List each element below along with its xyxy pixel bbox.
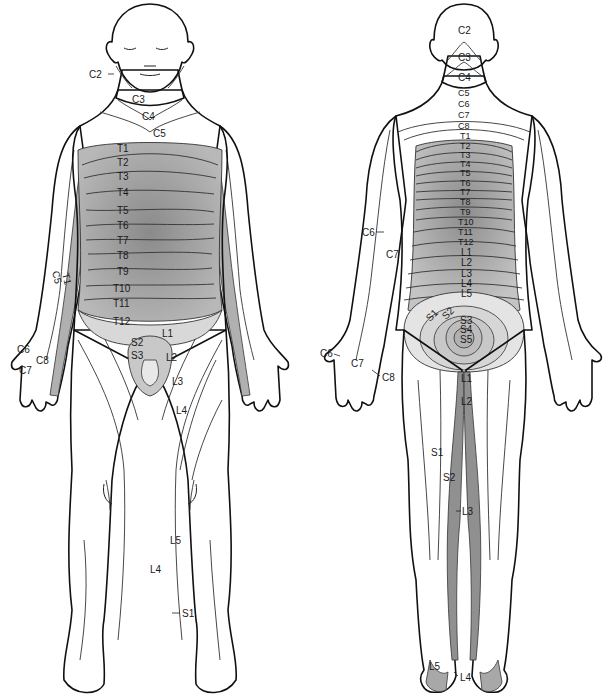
label-c4: C4 (142, 111, 155, 122)
label-leg-l3: L3 (462, 506, 474, 517)
label-t4: T4 (117, 187, 129, 198)
label-c3: C3 (132, 94, 145, 105)
label-t5: T5 (117, 205, 129, 216)
label-post-c8: C8 (458, 121, 470, 131)
label-hand-c7: C7 (351, 358, 364, 369)
anterior-view: C2 C3 C4 C5 T1 T2 T3 T4 T5 T6 T7 T8 T9 T… (12, 4, 289, 693)
label-l3: L3 (172, 376, 184, 387)
label-t8: T8 (117, 250, 129, 261)
label-arm-c6: C6 (362, 227, 375, 238)
label-post-t9: T9 (460, 207, 471, 217)
label-foot-l5: L5 (429, 661, 441, 672)
label-t10: T10 (113, 283, 131, 294)
label-post-c7: C7 (458, 110, 470, 120)
label-c2: C2 (89, 69, 102, 80)
label-post-t12: T12 (458, 237, 474, 247)
label-post-c4: C4 (458, 72, 471, 83)
posterior-head (430, 4, 498, 76)
label-t1: T1 (117, 143, 129, 154)
label-t3: T3 (117, 171, 129, 182)
label-post-t10: T10 (458, 217, 474, 227)
label-post-c2: C2 (458, 25, 471, 36)
label-leg-l4: L4 (150, 564, 162, 575)
label-t6: T6 (117, 220, 129, 231)
label-s3: S3 (131, 350, 144, 361)
label-c7: C7 (19, 365, 32, 376)
label-c8: C8 (36, 355, 49, 366)
label-hand-c8: C8 (382, 372, 395, 383)
label-post-l2: L2 (461, 257, 473, 268)
posterior-leg-lines (418, 370, 510, 692)
label-post-c6: C6 (458, 99, 470, 109)
label-leg-s1: S1 (431, 447, 444, 458)
label-foot-l4: L4 (460, 672, 472, 683)
label-c5: C5 (153, 128, 166, 139)
label-c6: C6 (17, 344, 30, 355)
label-arm-c7: C7 (386, 249, 399, 260)
dermatome-diagram: C2 C3 C4 C5 T1 T2 T3 T4 T5 T6 T7 T8 T9 T… (0, 0, 604, 700)
label-l4: L4 (176, 405, 188, 416)
label-post-t11: T11 (458, 227, 473, 237)
label-leg-l2: L2 (461, 396, 473, 407)
label-t2: T2 (117, 157, 129, 168)
label-t12: T12 (113, 316, 131, 327)
label-leg-l5: L5 (170, 535, 182, 546)
label-post-c3: C3 (458, 52, 471, 63)
label-post-t1: T1 (460, 131, 471, 141)
label-post-t5: T5 (460, 168, 471, 178)
label-post-t7: T7 (460, 187, 471, 197)
label-s1: S1 (182, 608, 195, 619)
label-l2: L2 (166, 352, 178, 363)
label-leg-s2: S2 (443, 472, 456, 483)
label-t11: T11 (113, 298, 130, 309)
label-t7: T7 (117, 235, 129, 246)
label-post-s5: S5 (460, 334, 473, 345)
label-post-t8: T8 (460, 197, 471, 207)
label-s2: S2 (131, 337, 144, 348)
anterior-head (106, 4, 193, 92)
posterior-view: C2 C3 C4 C5 C6 C7 C8 T1 T2 T3 T4 T5 T6 T… (320, 4, 601, 692)
label-hand-c6: C6 (320, 348, 333, 359)
label-l1: L1 (162, 328, 174, 339)
label-t9: T9 (117, 266, 129, 277)
label-post-l5: L5 (461, 288, 473, 299)
label-post-c5: C5 (458, 88, 470, 98)
label-leg-l1: L1 (461, 373, 473, 384)
